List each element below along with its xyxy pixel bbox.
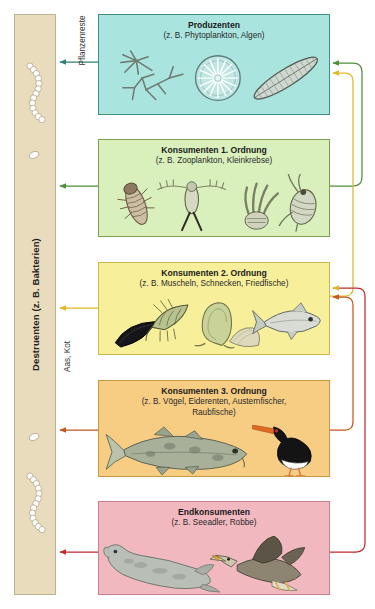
arrow-endcons-feedback-cons2 [330, 288, 365, 552]
larva-icon [245, 184, 278, 230]
konsumenten-3-artwork [99, 425, 329, 476]
level-box-konsumenten-2[interactable]: Konsumenten 2. Ordnung (z. B. Muscheln, … [98, 262, 330, 355]
arrow-cons3-feedback-cons2 [330, 297, 353, 430]
needle-diatom-icon [250, 51, 322, 106]
shrimp-icon [136, 297, 195, 347]
round-diatom-icon [196, 56, 241, 101]
label-carrion-feces: Aas, Kot [63, 332, 72, 382]
endkonsumenten-title: Endkonsumenten [99, 507, 329, 518]
level-box-endkonsumenten[interactable]: Endkonsumenten (z. B. Seeadler, Robbe) [98, 501, 330, 595]
star-diatom-icon [121, 51, 183, 100]
cod-icon [106, 427, 246, 475]
konsumenten-1-artwork [99, 174, 329, 236]
seal-icon [104, 545, 220, 592]
produzenten-artwork [99, 49, 329, 114]
konsumenten-3-subtitle: (z. B. Vögel, Eiderenten, Austernfischer… [103, 397, 325, 418]
produzenten-title: Produzenten [99, 20, 329, 31]
isopod-icon [113, 178, 159, 230]
konsumenten-1-subtitle: (z. B. Zooplankton, Kleinkrebse) [103, 156, 325, 167]
endkonsumenten-subtitle: (z. B. Seeadler, Robbe) [103, 518, 325, 529]
herring-icon [253, 303, 321, 340]
konsumenten-2-artwork [99, 297, 329, 354]
food-web-diagram: Destruenten (z. B. Bakterien) [0, 0, 375, 609]
oystercatcher-icon [252, 425, 311, 476]
endkonsumenten-artwork [99, 536, 329, 594]
level-box-konsumenten-1[interactable]: Konsumenten 1. Ordnung (z. B. Zooplankto… [98, 139, 330, 237]
level-box-konsumenten-3[interactable]: Konsumenten 3. Ordnung (z. B. Vögel, Eid… [98, 380, 330, 477]
konsumenten-1-title: Konsumenten 1. Ordnung [99, 145, 329, 156]
bacteria-illustration [14, 14, 56, 595]
arrow-cons2-feedback-producers [330, 73, 353, 296]
level-box-produzenten[interactable]: Produzenten (z. B. Phytoplankton, Algen) [98, 14, 330, 115]
mussel-icon [112, 319, 159, 348]
snail-icon [195, 303, 235, 348]
water-flea-icon [277, 174, 322, 234]
konsumenten-3-title: Konsumenten 3. Ordnung [99, 386, 329, 397]
konsumenten-2-title: Konsumenten 2. Ordnung [99, 268, 329, 279]
sea-eagle-icon [210, 536, 305, 591]
konsumenten-2-subtitle: (z. B. Muscheln, Schnecken, Friedfische) [103, 279, 325, 290]
produzenten-subtitle: (z. B. Phytoplankton, Algen) [103, 31, 325, 42]
copepod-icon [158, 180, 226, 230]
arrow-cons1-feedback-producers [330, 63, 362, 186]
label-plant-remains: Pflanzenreste [78, 11, 87, 71]
